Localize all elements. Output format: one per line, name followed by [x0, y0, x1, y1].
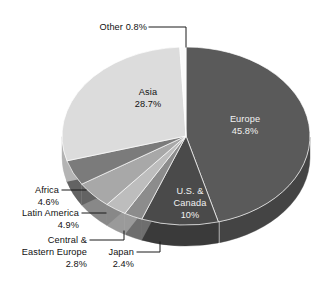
label-central-eastern-europe-line1: Central &	[48, 235, 87, 245]
label-us-canada-line1: U.S. &	[176, 186, 203, 196]
label-asia-line1: Asia	[139, 87, 158, 97]
label-other: Other 0.8%	[100, 22, 147, 32]
label-central-eastern-europe-line3: 2.8%	[66, 259, 87, 269]
label-central-eastern-europe-line2: Eastern Europe	[22, 247, 87, 257]
label-latin-america-line1: Latin America	[22, 208, 80, 218]
label-japan-line2: 2.4%	[113, 259, 134, 269]
pie-chart-svg: Other 0.8% Asia 28.7% Europe 45.8% U.S. …	[0, 0, 332, 289]
label-europe-line2: 45.8%	[232, 126, 259, 136]
pie-chart-figure: Other 0.8% Asia 28.7% Europe 45.8% U.S. …	[0, 0, 332, 289]
label-latin-america-line2: 4.9%	[58, 220, 79, 230]
label-asia-line2: 28.7%	[135, 99, 162, 109]
label-africa-line2: 4.6%	[38, 197, 59, 207]
label-europe-line1: Europe	[230, 114, 260, 124]
label-japan-line1: Japan	[108, 247, 134, 257]
label-us-canada-line3: 10%	[181, 210, 200, 220]
label-africa-line1: Africa	[35, 185, 60, 195]
label-us-canada-line2: Canada	[174, 198, 208, 208]
label-other-line1: Other 0.8%	[100, 22, 147, 32]
